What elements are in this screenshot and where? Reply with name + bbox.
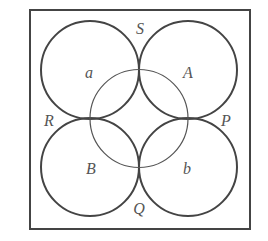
center-circle xyxy=(90,70,188,168)
circles-diagram: S R P Q a A B b xyxy=(0,0,268,241)
region-label-a: a xyxy=(85,64,93,81)
point-label-R: R xyxy=(43,112,54,129)
region-label-A: A xyxy=(182,64,193,81)
point-label-Q: Q xyxy=(133,200,145,217)
point-label-P: P xyxy=(220,112,231,129)
region-label-B: B xyxy=(86,160,96,177)
point-label-S: S xyxy=(136,20,144,37)
frame-square xyxy=(30,10,250,229)
region-label-b: b xyxy=(183,160,191,177)
